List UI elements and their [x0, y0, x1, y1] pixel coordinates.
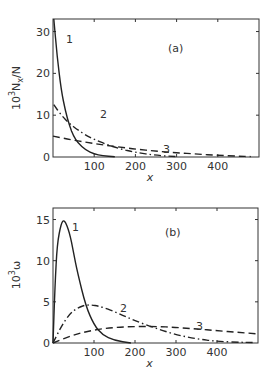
series-1-label: 1: [72, 221, 79, 234]
series-3-label: 3: [196, 320, 203, 333]
x-axis-label: x: [146, 171, 154, 184]
series-3-line: [53, 327, 258, 344]
x-tick-label: 300: [166, 346, 187, 359]
y-tick-label: 30: [36, 26, 50, 39]
series-2-label: 2: [120, 302, 127, 315]
series-2-label: 2: [100, 108, 107, 121]
y-tick-label: 0: [43, 337, 50, 350]
series-1-line: [54, 19, 115, 157]
series-2-line: [53, 305, 254, 343]
y-axis-label: 103Nx/N: [8, 66, 25, 110]
x-axis-label: x: [145, 357, 153, 370]
y-tick-label: 10: [36, 255, 50, 268]
x-tick-label: 400: [207, 160, 228, 173]
series-2-line: [54, 105, 177, 157]
y-tick-label: 10: [36, 109, 50, 122]
y-axis-label: 103ω: [8, 261, 23, 289]
y-tick-label: 20: [36, 67, 50, 80]
series-1-label: 1: [66, 33, 73, 46]
plot-frame: [53, 208, 258, 343]
chart-panel-b: 100200300400051015x103ω(b)123: [8, 208, 258, 370]
x-tick-label: 300: [166, 160, 187, 173]
plot-frame: [53, 19, 259, 157]
panel-label: (a): [168, 42, 183, 55]
x-tick-label: 100: [84, 160, 105, 173]
x-tick-label: 200: [125, 160, 146, 173]
panel-label: (b): [165, 226, 181, 239]
series-3-label: 3: [163, 143, 170, 156]
series-1-line: [53, 221, 131, 343]
x-tick-label: 200: [125, 346, 146, 359]
y-tick-label: 0: [43, 151, 50, 164]
x-tick-label: 100: [84, 346, 105, 359]
y-tick-label: 5: [43, 296, 50, 309]
y-tick-label: 15: [36, 214, 50, 227]
x-tick-label: 400: [207, 346, 228, 359]
chart-panel-a: 1002003004000102030x103Nx/N(a)123: [8, 19, 259, 184]
chart-figure: 1002003004000102030x103Nx/N(a)1231002003…: [0, 0, 273, 380]
